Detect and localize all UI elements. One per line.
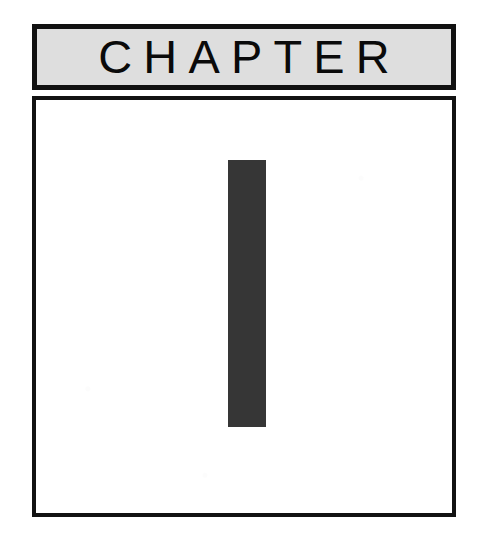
chapter-number-glyph: 1 xyxy=(228,160,266,427)
scanned-page: CHAPTER 1 xyxy=(0,0,488,540)
chapter-label: CHAPTER xyxy=(33,34,455,80)
chapter-header-band: CHAPTER xyxy=(32,24,456,90)
